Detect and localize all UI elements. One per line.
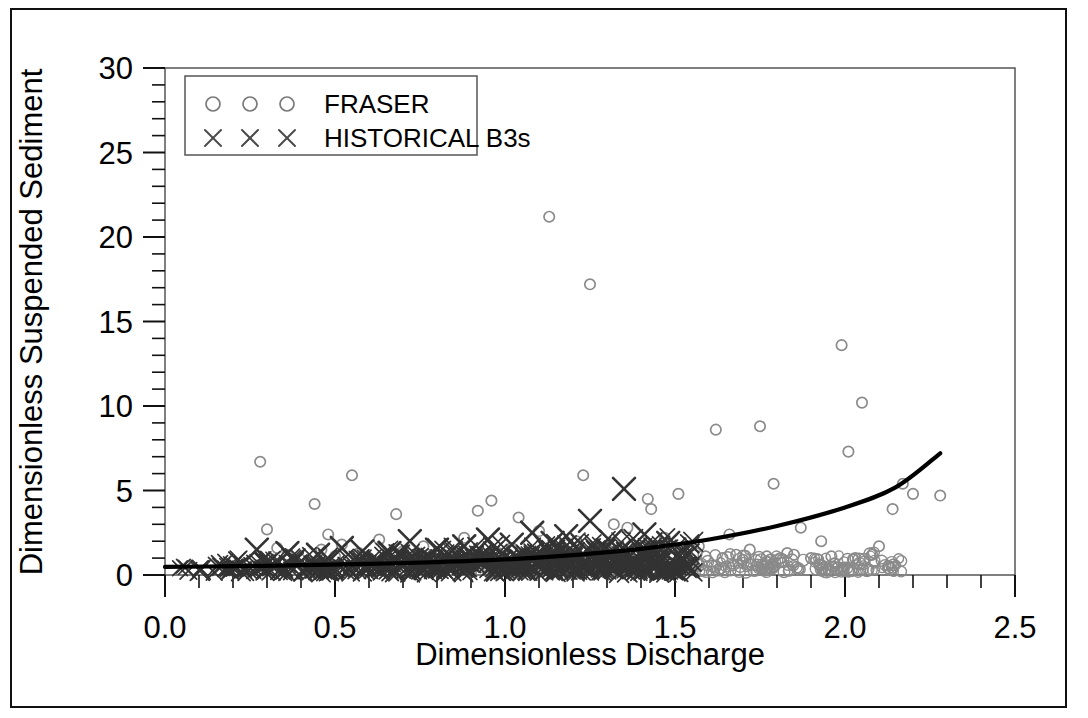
y-axis-tick-labels: 051015202530 — [99, 51, 133, 593]
y-tick-label: 0 — [116, 558, 133, 593]
y-tick-label: 30 — [99, 51, 133, 86]
y-tick-label: 25 — [99, 136, 133, 171]
x-tick-label: 2.5 — [993, 610, 1036, 645]
x-tick-label: 0.0 — [143, 610, 186, 645]
x-axis-title: Dimensionless Discharge — [415, 637, 765, 672]
scatter-chart: 0.00.51.01.52.02.5 051015202530 Dimensio… — [0, 0, 1088, 718]
y-axis-major-ticks — [143, 68, 165, 575]
legend-label: HISTORICAL B3s — [324, 123, 531, 153]
y-tick-label: 20 — [99, 220, 133, 255]
legend-label: FRASER — [324, 89, 429, 119]
x-tick-label: 0.5 — [313, 610, 356, 645]
y-axis-title: Dimensionless Suspended Sediment — [14, 68, 49, 575]
figure-root: 0.00.51.01.52.02.5 051015202530 Dimensio… — [0, 0, 1088, 718]
y-tick-label: 10 — [99, 389, 133, 424]
x-tick-label: 2.0 — [823, 610, 866, 645]
y-tick-label: 5 — [116, 474, 133, 509]
y-tick-label: 15 — [99, 305, 133, 340]
